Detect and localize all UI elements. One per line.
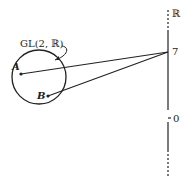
real-axis (168, 10, 171, 177)
tick-0-label: 0 (173, 114, 179, 124)
group-label: GL(2, ℝ) (20, 39, 63, 49)
point-b-label: B (37, 91, 45, 101)
tick-7-label: 7 (172, 47, 178, 57)
point-b (46, 94, 49, 97)
axis-label: ℝ (172, 9, 180, 19)
point-a (19, 72, 22, 75)
diagram-canvas (0, 0, 190, 187)
point-a-label: A (12, 62, 20, 72)
